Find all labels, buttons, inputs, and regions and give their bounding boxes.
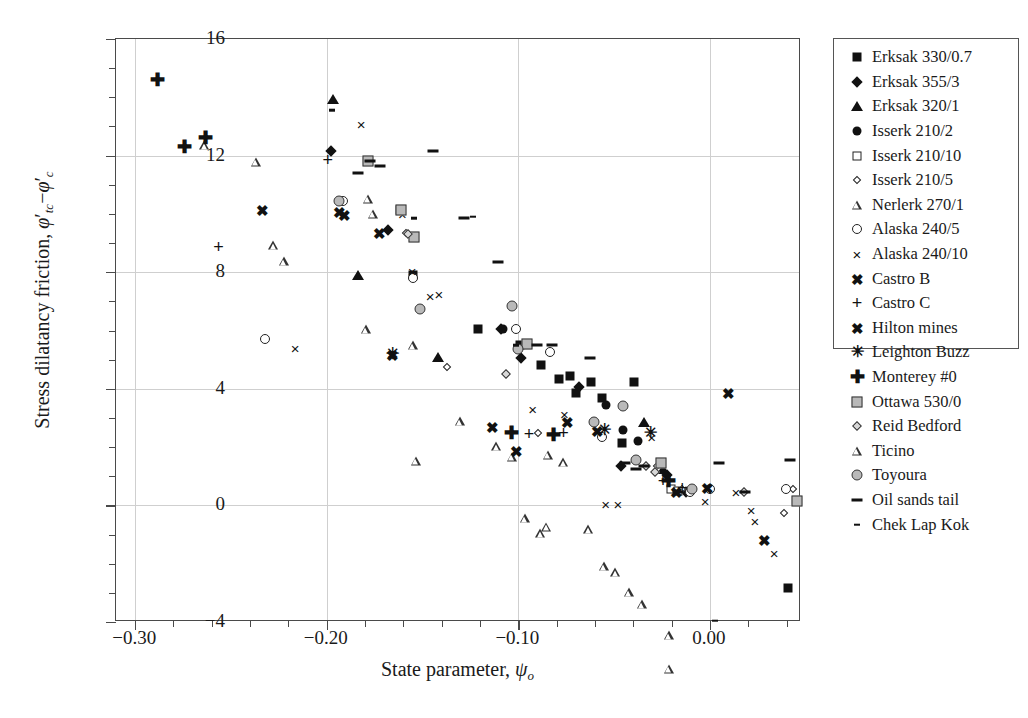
legend-item-nerlerk-270-1[interactable]: Nerlerk 270/1 [834, 193, 1018, 218]
data-point [583, 525, 593, 534]
legend-marker-plus-icon: + [846, 294, 870, 312]
legend-marker-open-square-icon [846, 147, 870, 165]
legend-item-label: Isserk 210/5 [870, 170, 953, 190]
data-point [712, 619, 718, 622]
data-point: ✖ [591, 424, 604, 439]
legend-marker-open-circle-icon [846, 220, 870, 238]
data-point [338, 196, 348, 206]
data-point [408, 232, 419, 243]
legend-item-alaska-240-10[interactable]: ×Alaska 240/10 [834, 242, 1018, 267]
data-point [617, 438, 626, 447]
data-point [260, 334, 270, 344]
data-point [364, 160, 375, 163]
x-tick-label: −0.30 [74, 628, 194, 647]
data-point: × [601, 496, 610, 511]
legend-item-ottawa-530-0[interactable]: Ottawa 530/0 [834, 389, 1018, 414]
legend-item-ticino[interactable]: Ticino [834, 439, 1018, 464]
marker-bold-plus: ✚ [850, 368, 865, 386]
chart-legend[interactable]: Erksak 330/0.7Erksak 355/3Erksak 320/1Is… [833, 38, 1019, 349]
x-tick-minor [748, 620, 749, 627]
data-point [657, 464, 669, 474]
data-point [531, 344, 542, 347]
y-tick-label: 0 [165, 494, 225, 513]
data-point [713, 462, 724, 465]
data-point [631, 467, 642, 470]
legend-item-erksak-320-1[interactable]: Erksak 320/1 [834, 94, 1018, 119]
data-point [630, 377, 639, 386]
data-point: ✳ [386, 346, 399, 362]
y-tick-major [106, 272, 116, 273]
marker-bold-x: ✖ [851, 320, 864, 335]
plot-area: ××××××××××××××××✖✖✖✖✖✖✖✖✖++++++✖✖✖✖✳✳✳✚✚… [115, 38, 800, 621]
y-tick-minor [109, 68, 116, 69]
legend-item-erksak-330-0-7[interactable]: Erksak 330/0.7 [834, 45, 1018, 70]
legend-item-isserk-210-5[interactable]: Isserk 210/5 [834, 168, 1018, 193]
legend-item-hilton-mines[interactable]: ✖Hilton mines [834, 316, 1018, 341]
data-point [279, 257, 289, 266]
data-point [615, 460, 626, 471]
data-point: × [560, 406, 569, 421]
y-tick-major [106, 505, 116, 506]
data-point [597, 432, 607, 442]
data-point [458, 217, 469, 220]
y-tick-major [106, 389, 116, 390]
legend-item-isserk-210-10[interactable]: Isserk 210/10 [834, 143, 1018, 168]
data-point [334, 195, 345, 206]
data-point [641, 461, 651, 471]
data-point [685, 487, 695, 497]
data-point: × [614, 496, 623, 511]
marker-small-diamond [853, 176, 861, 184]
data-point: + [213, 238, 224, 256]
data-point [535, 528, 545, 537]
legend-item-isserk-210-2[interactable]: Isserk 210/2 [834, 119, 1018, 144]
legend-item-erksak-355-3[interactable]: Erksak 355/3 [834, 70, 1018, 95]
legend-item-monterey-0[interactable]: ✚Monterey #0 [834, 365, 1018, 390]
data-point [395, 204, 406, 215]
data-point [428, 150, 439, 153]
y-axis-title: Stress dilatancy friction, φ′tc−φ′c [31, 171, 57, 428]
marker-gray-square [852, 396, 863, 407]
data-point: ✖ [386, 348, 399, 363]
legend-marker-filled-triangle-icon [846, 97, 870, 115]
data-point [634, 437, 643, 446]
data-point [546, 344, 557, 347]
y-tick-minor [109, 301, 116, 302]
data-point [327, 94, 339, 104]
legend-item-castro-b[interactable]: ✖Castro B [834, 266, 1018, 291]
legend-marker-gray-square-icon [846, 393, 870, 411]
data-point: ✖ [333, 205, 346, 220]
x-tick-minor [288, 620, 289, 627]
legend-item-alaska-240-5[interactable]: Alaska 240/5 [834, 217, 1018, 242]
x-tick-minor [595, 620, 596, 627]
data-point [661, 469, 672, 480]
x-tick-minor [403, 620, 404, 627]
legend-marker-x-icon: × [846, 245, 870, 263]
x-tick-minor [672, 620, 673, 627]
legend-item-label: Nerlerk 270/1 [870, 195, 964, 215]
data-point [543, 450, 553, 459]
data-point [617, 401, 628, 412]
data-point [395, 205, 404, 214]
data-point [403, 229, 413, 239]
legend-item-leighton-buzz[interactable]: ✳Leighton Buzz [834, 340, 1018, 365]
marker-star: ✳ [851, 344, 864, 360]
x-tick-minor [787, 620, 788, 627]
legend-item-castro-c[interactable]: +Castro C [834, 291, 1018, 316]
data-point [362, 156, 373, 167]
legend-item-chek-lap-kok[interactable]: Chek Lap Kok [834, 512, 1018, 537]
data-point [558, 458, 568, 467]
legend-item-oil-sands-tail[interactable]: Oil sands tail [834, 488, 1018, 513]
y-tick-minor [109, 126, 116, 127]
data-point [495, 323, 506, 334]
data-point [501, 369, 511, 379]
data-point: + [558, 424, 569, 442]
x-tick-minor [480, 620, 481, 627]
data-point [780, 508, 788, 516]
legend-item-label: Toyoura [870, 465, 927, 485]
data-point [674, 486, 683, 495]
legend-item-reid-bedford[interactable]: Reid Bedford [834, 414, 1018, 439]
legend-item-toyoura[interactable]: Toyoura [834, 463, 1018, 488]
data-point [650, 467, 660, 477]
legend-item-label: Isserk 210/10 [870, 146, 961, 166]
gridline-vertical [518, 39, 519, 620]
